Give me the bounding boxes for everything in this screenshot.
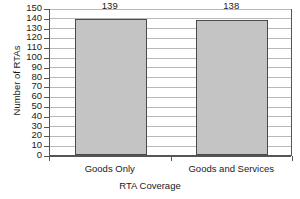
bar[interactable] (196, 20, 268, 155)
x-tick-label: Goods and Services (171, 163, 291, 175)
y-tick-label: 0 (37, 150, 42, 160)
x-axis-title: RTA Coverage (0, 180, 300, 191)
bar-chart: Number of RTAs 1501401301201101009080706… (0, 0, 300, 199)
bar-value-label: 139 (70, 0, 150, 11)
bars-layer (50, 9, 291, 155)
plot-area (49, 9, 292, 156)
x-tick-label: Goods Only (50, 163, 170, 175)
bar-value-label: 138 (191, 0, 271, 11)
x-tick-mark-origin (49, 156, 50, 161)
x-tick-mark (171, 156, 172, 161)
y-axis-ticks: 1501401301201101009080706050403020100 (0, 9, 49, 156)
x-tick-mark (292, 156, 293, 161)
bar[interactable] (75, 19, 147, 155)
